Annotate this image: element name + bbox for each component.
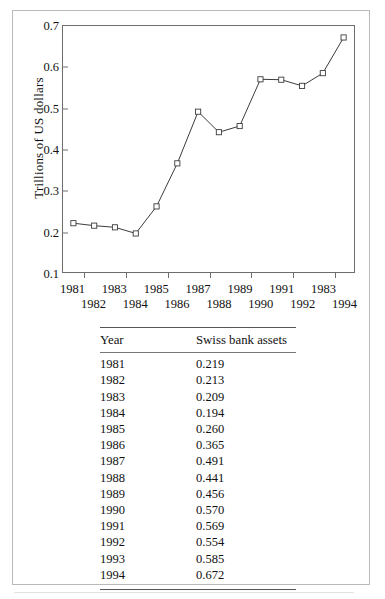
data-point-marker [112,225,117,230]
table-header-assets: Swiss bank assets [196,332,296,348]
table-row: 19930.585 [100,551,296,567]
data-point-marker [237,123,242,128]
data-point-marker [175,161,180,166]
y-tick-label: 0.7 [43,19,59,34]
table-cell-assets: 0.194 [196,405,296,421]
x-tick-label: 1984 [123,297,148,312]
x-tick-label: 1982 [81,297,106,312]
table-row: 19870.491 [100,453,296,469]
x-tick-label: 1981 [60,282,85,297]
table-row: 19850.260 [100,421,296,437]
table-cell-assets: 0.441 [196,470,296,486]
x-tick-label: 1992 [290,297,315,312]
x-tick-label: 1987 [186,282,211,297]
y-tick-label: 0.2 [43,225,59,240]
table-cell-year: 1986 [100,437,196,453]
table-row: 19860.365 [100,437,296,453]
table-cell-year: 1994 [100,567,196,583]
table-row: 19910.569 [100,518,296,534]
table-cell-year: 1983 [100,389,196,405]
data-series-swiss-bank-assets [63,26,354,272]
table-row: 19830.209 [100,389,296,405]
table-cell-year: 1991 [100,518,196,534]
page: Trillions of US dollars 0.10.20.30.40.50… [0,0,385,599]
scan-edge-artifact [14,592,354,593]
table-cell-assets: 0.213 [196,372,296,388]
data-point-marker [216,130,221,135]
y-tick-label: 0.5 [43,101,59,116]
y-tick-label: 0.3 [43,184,59,199]
x-tick-label: 1986 [165,297,190,312]
data-point-marker [154,204,159,209]
table-header-year: Year [100,332,196,348]
table-cell-year: 1981 [100,356,196,372]
table-bottom-rule [100,589,296,590]
table-cell-assets: 0.219 [196,356,296,372]
series-line [73,37,343,233]
table-row: 19820.213 [100,372,296,388]
data-point-marker [341,35,346,40]
table-body: 19810.21919820.21319830.20919840.1941985… [100,353,296,589]
table-cell-year: 1990 [100,502,196,518]
x-tick-label: 1989 [227,282,252,297]
data-point-marker [92,223,97,228]
table-cell-year: 1989 [100,486,196,502]
table-cell-assets: 0.456 [196,486,296,502]
table-row: 19920.554 [100,534,296,550]
table-cell-assets: 0.570 [196,502,296,518]
table-cell-assets: 0.365 [196,437,296,453]
table-cell-assets: 0.569 [196,518,296,534]
x-tick-label: 1988 [206,297,231,312]
data-table: Year Swiss bank assets 19810.21919820.21… [100,327,296,590]
table-row: 19900.570 [100,502,296,518]
table-cell-assets: 0.554 [196,534,296,550]
x-tick-mark [84,272,85,278]
y-tick-label: 0.1 [43,267,59,282]
data-point-marker [258,77,263,82]
x-tick-mark [210,272,211,278]
x-tick-label: 1985 [144,282,169,297]
data-point-marker [320,71,325,76]
x-tick-mark [251,272,252,278]
table-cell-year: 1984 [100,405,196,421]
table-row: 19840.194 [100,405,296,421]
table-row: 19940.672 [100,567,296,583]
chart-plot-area: 0.10.20.30.40.50.60.7 [62,25,355,273]
x-tick-mark [293,272,294,278]
data-point-marker [299,83,304,88]
data-point-marker [133,231,138,236]
line-chart-figure: Trillions of US dollars 0.10.20.30.40.50… [12,10,370,310]
table-cell-assets: 0.209 [196,389,296,405]
x-tick-label: 1983 [102,282,127,297]
table-cell-year: 1982 [100,372,196,388]
table-row: 19810.219 [100,356,296,372]
y-tick-label: 0.6 [43,60,59,75]
table-cell-year: 1987 [100,453,196,469]
series-markers [71,35,346,236]
table-cell-assets: 0.260 [196,421,296,437]
table-cell-year: 1985 [100,421,196,437]
table-header-row: Year Swiss bank assets [100,328,296,352]
x-tick-mark [126,272,127,278]
table-row: 19890.456 [100,486,296,502]
table-cell-year: 1992 [100,534,196,550]
chart-y-axis-label: Trillions of US dollars [31,23,47,253]
table-cell-assets: 0.672 [196,567,296,583]
y-tick-label: 0.4 [43,143,59,158]
table-cell-year: 1988 [100,470,196,486]
data-point-marker [279,77,284,82]
table-cell-assets: 0.585 [196,551,296,567]
data-point-marker [196,109,201,114]
x-tick-mark [335,272,336,278]
x-tick-label: 1990 [248,297,273,312]
table-row: 19880.441 [100,470,296,486]
table-cell-assets: 0.491 [196,453,296,469]
x-axis-labels: 1981198319851987198919911983198219841986… [62,282,355,318]
x-tick-label: 1994 [332,297,357,312]
x-tick-mark [168,272,169,278]
x-tick-label: 1983 [311,282,336,297]
x-tick-label: 1991 [269,282,294,297]
data-point-marker [71,221,76,226]
table-cell-year: 1993 [100,551,196,567]
